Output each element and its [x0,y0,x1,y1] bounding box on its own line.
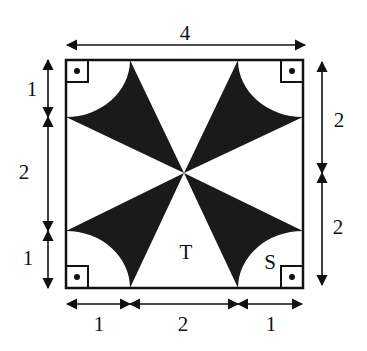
shaded-region-top-left [66,60,184,173]
label-right-1: 2 [334,108,345,132]
shaded-region-bottom-right [184,173,303,288]
label-left-2: 2 [19,160,30,184]
shaded-region-top-right [184,60,303,173]
label-region-s: S [264,250,276,274]
label-left-3: 1 [23,246,34,270]
label-right-2: 2 [333,215,344,239]
label-region-t: T [180,240,193,264]
label-top: 4 [180,21,191,45]
label-bottom-2: 2 [178,312,189,336]
label-bottom-3: 1 [266,312,277,336]
shaded-region-bottom-left [66,173,184,288]
geometry-diagram: 4 1 2 1 2 2 1 2 1 T S [0,0,367,351]
label-left-1: 1 [27,77,38,101]
label-bottom-1: 1 [94,312,105,336]
